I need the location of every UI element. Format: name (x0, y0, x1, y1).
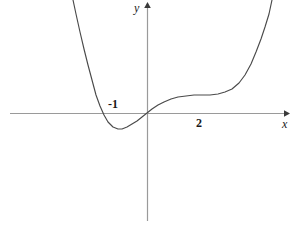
y-axis (144, 2, 151, 221)
y-axis-label: y (134, 2, 139, 14)
x-axis-arrowhead (284, 110, 290, 117)
x-axis-label: x (282, 118, 287, 130)
x-tick-label-two: 2 (196, 117, 202, 129)
y-axis-arrowhead (144, 2, 151, 8)
graph-figure: y x -1 2 (0, 0, 292, 227)
x-tick-label-negative-one: -1 (108, 98, 118, 110)
function-curve (73, 0, 272, 129)
plot-canvas (0, 0, 292, 227)
